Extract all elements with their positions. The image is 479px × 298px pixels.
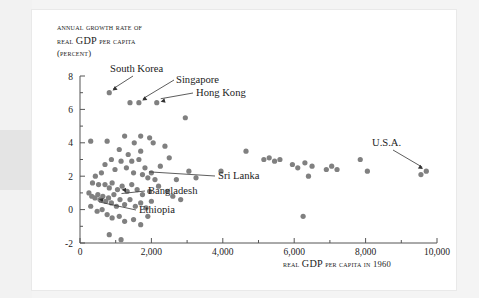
data-point [90,180,95,185]
x-tick-label: 8,000 [355,247,377,257]
data-point [111,192,116,197]
data-point [302,160,307,165]
data-point [105,212,110,217]
data-point [110,215,115,220]
data-point [131,170,136,175]
data-point [117,214,122,219]
data-point [122,219,127,224]
y-tick-label: 4 [68,138,73,148]
data-point [149,170,154,175]
annotation-leader [161,93,193,99]
y-tick-label: 2 [68,172,73,182]
data-point [138,134,143,139]
annotation-label: Bangladesh [148,185,198,196]
x-tick-label: 0 [78,247,83,257]
data-point [174,177,179,182]
data-point [118,237,123,242]
data-point [178,197,183,202]
data-point [142,165,147,170]
data-point [106,195,111,200]
data-point [120,184,125,189]
data-point [126,152,131,157]
annotation-label: Sri Lanka [218,170,260,181]
annotation-label: South Korea [110,63,164,74]
data-point [138,222,143,227]
data-point [129,182,134,187]
data-point [295,165,300,170]
data-point [138,149,143,154]
axes-group: 02,0004,0006,0008,00010,000-202468 [65,72,450,258]
data-point [152,177,157,182]
annotation-label: Ethiopia [139,204,175,215]
scatter-plot: Annual growth rate of real GDP per capit… [0,0,479,298]
data-point [193,175,198,180]
data-point [107,90,112,95]
data-point [140,192,145,197]
data-point [306,174,311,179]
data-point [95,192,100,197]
annotation-leader [113,76,133,89]
data-point [334,167,339,172]
data-point [261,157,266,162]
data-point [324,167,329,172]
y-tick-label: 6 [68,105,73,115]
data-point [329,164,334,169]
x-tick-label: 4,000 [212,247,234,257]
data-point [102,162,107,167]
data-point [109,157,114,162]
annotation-label: U.S.A. [372,137,401,148]
data-point [365,169,370,174]
y-tick-label: 8 [68,72,73,82]
data-point [418,172,423,177]
data-point [88,204,93,209]
data-point [100,194,105,199]
data-point [102,182,107,187]
x-tick-label: 6,000 [284,247,306,257]
data-points-group [86,90,429,242]
data-point [309,164,314,169]
annotation-leader [393,150,422,167]
data-point [122,202,127,207]
data-point [107,185,112,190]
data-point [131,217,136,222]
data-point [290,162,295,167]
data-point [95,209,100,214]
data-point [145,175,150,180]
data-point [112,167,117,172]
data-point [151,140,156,145]
data-point [133,204,138,209]
data-point [127,197,132,202]
x-tick-label: 2,000 [141,247,163,257]
data-point [167,155,172,160]
data-point [110,180,115,185]
data-point [122,134,127,139]
chart-svg: 02,0004,0006,0008,00010,000-202468 South… [0,0,479,298]
data-point [118,159,123,164]
data-point [129,159,134,164]
data-point [243,149,248,154]
data-point [162,144,167,149]
data-point [301,214,306,219]
data-point [267,155,272,160]
data-point [183,115,188,120]
data-point [124,165,129,170]
annotation-label: Singapore [176,74,219,85]
data-point [96,182,101,187]
data-point [107,232,112,237]
data-point [105,139,110,144]
data-point [117,197,122,202]
data-point [117,147,122,152]
data-point [277,157,282,162]
data-point [186,169,191,174]
data-point [158,164,163,169]
data-point [136,100,141,105]
y-tick-label: -2 [65,239,73,249]
annotation-leader [143,80,174,99]
data-point [115,187,120,192]
data-point [88,139,93,144]
data-point [99,170,104,175]
y-tick-label: 0 [68,205,73,215]
annotation-leader [149,172,215,176]
data-point [140,172,145,177]
data-point [272,159,277,164]
